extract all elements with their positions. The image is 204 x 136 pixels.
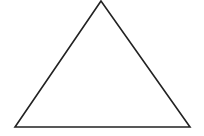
diagram-canvas <box>0 0 204 136</box>
